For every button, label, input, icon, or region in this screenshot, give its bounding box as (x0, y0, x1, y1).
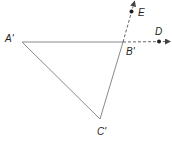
label-a-prime: A' (5, 34, 14, 44)
label-c-prime: C' (97, 127, 106, 137)
ray-b-d (123, 42, 170, 43)
side-a-c (22, 42, 100, 119)
label-d: D (155, 27, 162, 37)
triangle-diagram-svg (0, 0, 172, 142)
diagram-canvas: A' B' C' D E (0, 0, 172, 142)
side-b-c (100, 42, 123, 119)
label-e: E (138, 8, 145, 18)
label-b-prime: B' (126, 47, 135, 57)
point-e (130, 10, 134, 14)
point-d (157, 40, 161, 44)
ray-b-e (123, 2, 135, 43)
